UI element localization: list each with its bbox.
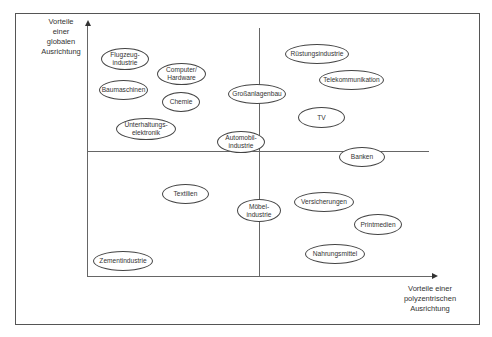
x-axis-arrow-icon [432, 273, 438, 279]
x-axis [87, 276, 433, 277]
industry-ellipse: Rüstungsindustrie [285, 44, 349, 64]
industry-ellipse: Möbel- industrie [237, 199, 281, 222]
industry-ellipse: Chemie [162, 92, 200, 112]
industry-ellipse: Baumaschinen [99, 80, 148, 100]
industry-ellipse: Printmedien [354, 214, 402, 235]
industry-ellipse: Textilien [162, 184, 209, 204]
industry-ellipse: Banken [339, 147, 385, 167]
x-axis-label: Vorteile einer polyzentrischen Ausrichtu… [390, 284, 470, 314]
industry-ellipse: Nahrungsmittel [305, 244, 365, 264]
industry-ellipse: Automobil- industrie [217, 131, 265, 153]
industry-ellipse: Versicherungen [294, 192, 354, 212]
industry-ellipse: Computer/ Hardware [157, 63, 206, 85]
vertical-divider [259, 28, 260, 276]
industry-ellipse: Flugzeug- industrie [101, 48, 149, 70]
industry-ellipse: Zementindustrie [93, 251, 153, 271]
industry-ellipse: Telekommunikation [319, 70, 384, 90]
diagram-frame [15, 13, 480, 325]
industry-ellipse: Großanlagenbau [228, 84, 286, 104]
industry-ellipse: TV [298, 107, 345, 128]
industry-ellipse: Unterhaltungs- elektronik [116, 118, 176, 140]
y-axis-label: Vorteile einer globalen Ausrichtung [36, 17, 86, 57]
